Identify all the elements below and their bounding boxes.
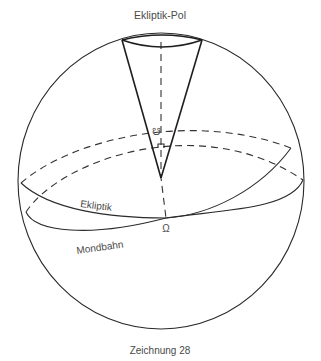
cone-top-front-rim [122, 40, 202, 47]
ecliptic-pole-label: Ekliptik-Pol [134, 9, 186, 21]
figure-caption: Zeichnung 28 [130, 345, 191, 356]
ecliptic-axis-dashed [161, 42, 166, 218]
ecliptic-back-dashed [21, 131, 291, 183]
cone-right-side [161, 40, 202, 178]
ascending-node-label: Ω [162, 223, 170, 234]
descending-node-label: ☋ [152, 126, 161, 137]
cone-left-side [122, 40, 161, 178]
moon-orbit-label: Mondbahn [76, 239, 124, 256]
celestial-sphere-diagram: Ekliptik-Pol Ekliptik Mondbahn Ω ☋ Zeich… [0, 0, 321, 361]
